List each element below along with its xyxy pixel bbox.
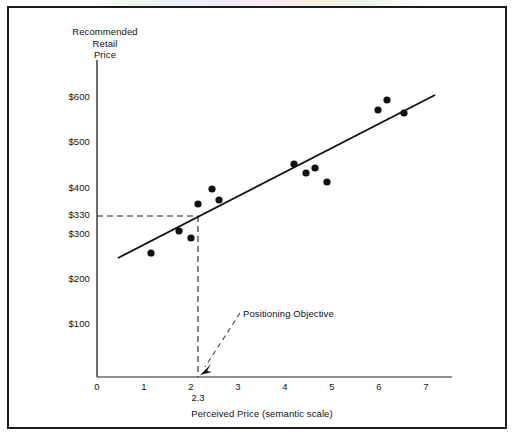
data-point [147,249,154,256]
data-point [383,96,390,103]
annotation-leader-line [205,313,240,367]
data-point [374,106,381,113]
data-point [302,169,309,176]
chart-figure: Recommended Retail Price $600 $500 $400 … [0,0,515,437]
data-point [175,227,182,234]
data-point [400,109,407,116]
data-point [208,185,215,192]
data-point [187,234,194,241]
trend-line [118,95,435,258]
plot-area [0,0,515,437]
data-point [215,196,222,203]
data-point [311,164,318,171]
data-point [290,160,297,167]
data-point [194,200,201,207]
data-point [323,178,330,185]
annotation-arrowhead-icon [200,364,212,375]
